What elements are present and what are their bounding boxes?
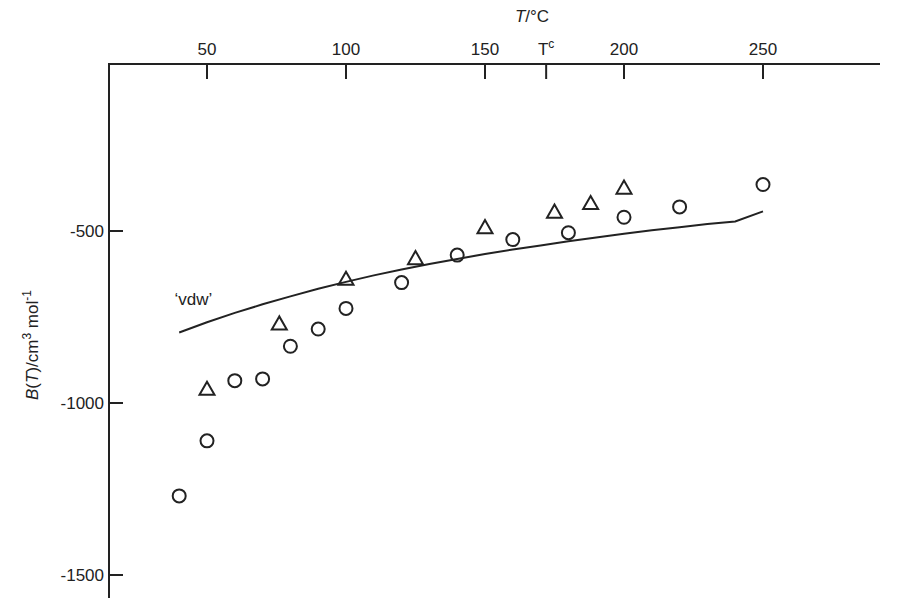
tc-tick-label: Tc xyxy=(538,37,554,59)
triangle-marker xyxy=(478,220,493,233)
circle-marker xyxy=(395,276,408,289)
triangle-marker xyxy=(583,196,598,209)
circle-marker xyxy=(228,374,241,387)
x-tick-label: 100 xyxy=(332,40,360,59)
x-tick-label: 250 xyxy=(749,40,777,59)
x-axis-title: T/°C xyxy=(515,7,549,26)
vdw-line xyxy=(179,211,763,332)
circle-marker xyxy=(312,323,325,336)
vdw-curve: ‘vdw’ xyxy=(174,211,763,332)
y-axis-title: B(T)/cm3 mol-1 xyxy=(20,290,42,400)
triangle-marker xyxy=(617,181,632,194)
circle-marker xyxy=(284,340,297,353)
triangle-markers xyxy=(200,181,632,395)
chart: 50100150200250Tc-500-1000-1500 ‘vdw’ T/°… xyxy=(0,0,914,614)
axis-labels: T/°C B(T)/cm3 mol-1 xyxy=(20,7,549,400)
circle-marker xyxy=(673,200,686,213)
axes: 50100150200250Tc-500-1000-1500 xyxy=(61,37,880,598)
triangle-marker xyxy=(272,316,287,329)
x-tick-label: 200 xyxy=(610,40,638,59)
triangle-marker xyxy=(200,382,215,395)
circle-marker xyxy=(757,178,770,191)
y-tick-label: -500 xyxy=(70,222,104,241)
y-tick-label: -1500 xyxy=(61,566,104,585)
triangle-marker xyxy=(408,251,423,264)
vdw-label: ‘vdw’ xyxy=(174,290,212,309)
circle-marker xyxy=(256,372,269,385)
circle-marker xyxy=(201,434,214,447)
circle-marker xyxy=(173,489,186,502)
circle-marker xyxy=(562,226,575,239)
y-tick-label: -1000 xyxy=(61,394,104,413)
triangle-marker xyxy=(547,205,562,218)
circle-marker xyxy=(506,233,519,246)
x-tick-label: 150 xyxy=(471,40,499,59)
circle-marker xyxy=(618,211,631,224)
circle-marker xyxy=(340,302,353,315)
x-tick-label: 50 xyxy=(198,40,217,59)
